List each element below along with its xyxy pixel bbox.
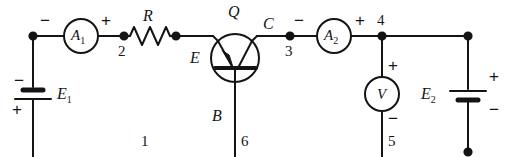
ammeter1-label: A1 — [71, 28, 85, 46]
junction-dot-top-right — [464, 32, 471, 39]
node-label-1: 1 — [141, 134, 149, 149]
transistor-collector-label: C — [263, 16, 274, 32]
ammeter1-letter: A — [71, 27, 80, 43]
transistor-emitter-lead — [213, 36, 218, 41]
battery1-minus-sign: − — [14, 72, 24, 89]
battery2-minus-sign: − — [489, 101, 499, 118]
battery1-plus-sign: + — [12, 101, 22, 118]
junction-dot-resistor-right — [172, 32, 179, 39]
resistor-label: R — [143, 8, 153, 24]
voltmeter-plus-sign: + — [388, 57, 398, 74]
ammeter1-minus-sign: − — [40, 12, 50, 29]
circuit-schematic-svg — [0, 0, 524, 157]
battery2-subscript: 2 — [431, 94, 436, 105]
transistor-collector-lead — [252, 36, 257, 41]
node-label-5: 5 — [388, 134, 396, 149]
ammeter2-plus-sign: + — [355, 12, 365, 29]
junction-dot-top-left — [29, 32, 36, 39]
transistor-collector-slant — [238, 41, 252, 68]
ammeter2-letter: A — [324, 27, 333, 43]
node-label-4: 4 — [377, 13, 385, 28]
node-label-3: 3 — [285, 44, 293, 59]
battery1-subscript: 1 — [67, 94, 72, 105]
ammeter2-label: A2 — [324, 28, 338, 46]
circuit-diagram: − + A1 2 R Q E C B 3 − + A2 4 + V − − + … — [0, 0, 524, 157]
voltmeter-minus-sign: − — [388, 110, 398, 127]
transistor-label: Q — [228, 4, 240, 20]
ammeter1-plus-sign: + — [101, 12, 111, 29]
junction-dot-node4 — [378, 32, 385, 39]
node-label-6: 6 — [241, 134, 249, 149]
ammeter1-subscript: 1 — [80, 35, 85, 46]
transistor-emitter-arrow — [222, 50, 233, 68]
battery1-label: E1 — [57, 86, 72, 105]
transistor-emitter-label: E — [190, 50, 200, 66]
battery2-plus-sign: + — [489, 68, 499, 85]
voltmeter-label: V — [377, 87, 386, 102]
ammeter2-subscript: 2 — [333, 35, 338, 46]
resistor-zigzag — [124, 27, 176, 45]
junction-dot-node2 — [120, 32, 127, 39]
battery2-letter: E — [421, 85, 431, 102]
junction-dot-node3 — [286, 32, 293, 39]
ammeter2-minus-sign: − — [294, 12, 304, 29]
transistor-base-label: B — [212, 108, 222, 124]
battery1-letter: E — [57, 85, 67, 102]
node-label-2: 2 — [118, 44, 126, 59]
battery2-label: E2 — [421, 86, 436, 105]
junction-dot-bottom-right — [464, 148, 471, 155]
